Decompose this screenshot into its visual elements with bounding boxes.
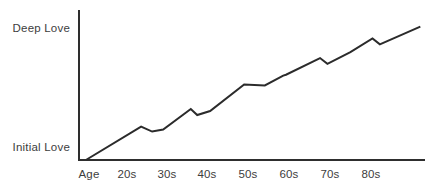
x-tick-label-80s: 80s xyxy=(361,168,380,180)
x-tick-label-age: Age xyxy=(78,168,99,180)
y-axis-labels: Deep Love Initial Love xyxy=(13,22,70,153)
x-tick-label-70s: 70s xyxy=(320,168,339,180)
y-axis-label-deep-love: Deep Love xyxy=(13,22,70,34)
x-tick-label-40s: 40s xyxy=(197,168,216,180)
chart-series-group xyxy=(86,27,420,160)
x-tick-label-20s: 20s xyxy=(117,168,136,180)
x-tick-label-50s: 50s xyxy=(238,168,257,180)
love-over-age-line-chart: Deep Love Initial Love Age 20s 30s 40s 5… xyxy=(0,0,428,191)
chart-canvas: Deep Love Initial Love Age 20s 30s 40s 5… xyxy=(0,0,428,191)
series-line-love-over-a-lifetime xyxy=(86,27,420,160)
x-tick-label-30s: 30s xyxy=(157,168,176,180)
x-tick-label-60s: 60s xyxy=(279,168,298,180)
x-axis-tick-labels: Age 20s 30s 40s 50s 60s 70s 80s xyxy=(78,168,380,180)
y-axis-label-initial-love: Initial Love xyxy=(13,141,70,153)
